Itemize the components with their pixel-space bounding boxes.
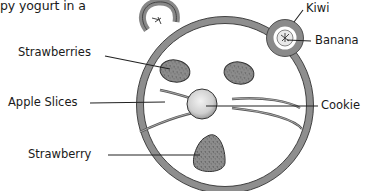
label-apple-slices: Apple Slices xyxy=(8,97,77,109)
recipe-illustration: py yogurt in a xyxy=(0,0,370,191)
strawberry-left-eye xyxy=(158,58,191,85)
strawberry-right-eye xyxy=(222,60,255,87)
label-strawberry: Strawberry xyxy=(28,149,91,161)
label-cookie: Cookie xyxy=(321,100,360,112)
label-kiwi: Kiwi xyxy=(306,3,329,15)
label-banana: Banana xyxy=(315,35,359,47)
cookie-nose xyxy=(187,89,217,119)
right-ear-kiwi xyxy=(267,20,304,57)
label-strawberries: Strawberries xyxy=(18,47,91,59)
apple-slice-whiskers xyxy=(140,90,302,132)
strawberry-mouth xyxy=(193,135,225,172)
left-ear-kiwi xyxy=(143,2,177,30)
